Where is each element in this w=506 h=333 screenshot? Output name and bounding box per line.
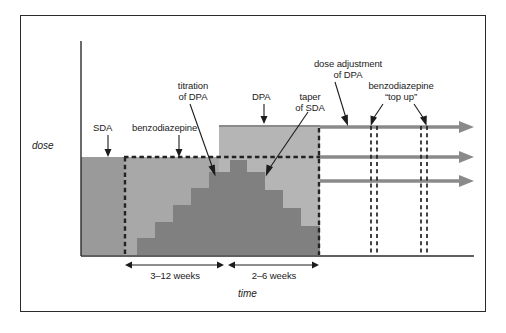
dose-adjustment-label-line1: dose adjustment — [300, 58, 396, 69]
titration-label-line2: of DPA — [160, 91, 226, 102]
top-up-annotation-arrow-2 — [414, 104, 427, 126]
sda-label: SDA — [93, 122, 112, 133]
continuation-arrow-sda — [320, 175, 474, 187]
taper-annotation-arrow — [266, 112, 308, 177]
taper-period-label: 2–6 weeks — [232, 270, 316, 281]
dose-adjustment-label: dose adjustment of DPA — [300, 58, 396, 80]
dpa-label: DPA — [252, 91, 271, 102]
titration-period-label: 3–12 weeks — [133, 270, 217, 281]
dpa-annotation-arrow — [261, 104, 268, 124]
taper-label-line1: taper — [288, 91, 332, 102]
dosing-schedule-diagram: dose time SDA benzodiazepine titration o… — [0, 0, 506, 333]
taper-label: taper of SDA — [288, 91, 332, 113]
taper-period-dimension — [228, 262, 319, 269]
y-axis-label: dose — [32, 140, 54, 151]
titration-annotation-arrow — [190, 104, 216, 177]
continuation-arrow-benzodiazepine — [320, 151, 474, 163]
dose-adjustment-annotation-arrow — [335, 82, 348, 126]
continuation-arrow-dpa — [320, 121, 474, 133]
taper-label-line2: of SDA — [288, 102, 332, 113]
top-up-marker-2 — [421, 126, 427, 255]
top-up-label-line1: benzodiazepine — [355, 80, 447, 91]
titration-period-dimension — [125, 262, 224, 269]
top-up-annotation-arrow-1 — [371, 104, 384, 126]
top-up-label: benzodiazepine “top up” — [355, 80, 447, 102]
top-up-marker-1 — [371, 126, 377, 255]
x-axis-label: time — [238, 288, 257, 299]
top-up-label-line2: “top up” — [355, 91, 447, 102]
benzodiazepine-label: benzodiazepine — [132, 122, 197, 133]
dose-adjustment-label-line2: of DPA — [300, 69, 396, 80]
titration-label-line1: titration — [160, 80, 226, 91]
benzodiazepine-annotation-arrow — [176, 135, 183, 157]
sda-annotation-arrow — [105, 135, 112, 157]
titration-label: titration of DPA — [160, 80, 226, 102]
